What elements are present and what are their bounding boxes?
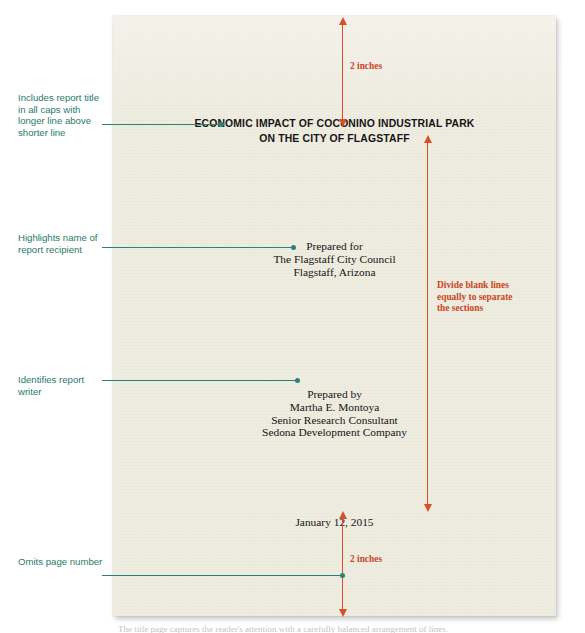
callout-writer: Identifies report writer bbox=[18, 374, 106, 397]
callout-recipient: Highlights name of report recipient bbox=[18, 232, 106, 255]
recipient-organization: The Flagstaff City Council bbox=[113, 253, 556, 266]
callout-leader-recipient bbox=[102, 247, 293, 248]
top-margin-label: 2 inches bbox=[350, 61, 382, 73]
recipient-block: Prepared for The Flagstaff City Council … bbox=[113, 240, 556, 278]
report-title: ECONOMIC IMPACT OF COCONINO INDUSTRIAL P… bbox=[113, 117, 556, 146]
bottom-margin-arrow-icon bbox=[342, 518, 343, 610]
writer-block: Prepared by Martha E. Montoya Senior Res… bbox=[113, 388, 556, 439]
section-spacing-arrow-icon bbox=[427, 142, 428, 505]
callout-leader-writer bbox=[102, 380, 297, 381]
callout-leader-page-number bbox=[102, 575, 342, 576]
callout-writer-text: Identifies report writer bbox=[18, 374, 106, 397]
report-date: January 12, 2015 bbox=[113, 516, 556, 529]
figure-container: ECONOMIC IMPACT OF COCONINO INDUSTRIAL P… bbox=[0, 0, 585, 633]
callout-recipient-text: Highlights name of report recipient bbox=[18, 232, 106, 255]
recipient-location: Flagstaff, Arizona bbox=[113, 266, 556, 279]
writer-heading: Prepared by bbox=[113, 388, 556, 401]
writer-company: Sedona Development Company bbox=[113, 426, 556, 439]
top-margin-arrow-icon bbox=[342, 24, 343, 120]
writer-title: Senior Research Consultant bbox=[113, 414, 556, 427]
callout-report-title-text: Includes report title in all caps with l… bbox=[18, 92, 106, 138]
bottom-margin-label: 2 inches bbox=[350, 554, 382, 566]
callout-leader-report-title bbox=[102, 124, 221, 125]
page-content-area: ECONOMIC IMPACT OF COCONINO INDUSTRIAL P… bbox=[113, 16, 556, 616]
callout-page-number: Omits page number bbox=[18, 556, 106, 568]
figure-caption: The title page captures the reader's att… bbox=[118, 624, 558, 633]
report-title-line-2: ON THE CITY OF FLAGSTAFF bbox=[113, 132, 556, 147]
divide-blank-lines-label: Divide blank lines equally to separate t… bbox=[437, 280, 515, 315]
report-title-page: ECONOMIC IMPACT OF COCONINO INDUSTRIAL P… bbox=[113, 16, 556, 616]
writer-name: Martha E. Montoya bbox=[113, 401, 556, 414]
callout-page-number-text: Omits page number bbox=[18, 556, 106, 568]
callout-report-title: Includes report title in all caps with l… bbox=[18, 92, 106, 138]
